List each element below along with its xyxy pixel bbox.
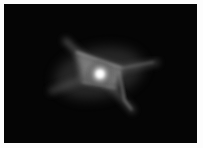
nebula-graphic [4, 4, 197, 143]
nebula-photo [4, 4, 197, 143]
image-frame [0, 0, 203, 148]
